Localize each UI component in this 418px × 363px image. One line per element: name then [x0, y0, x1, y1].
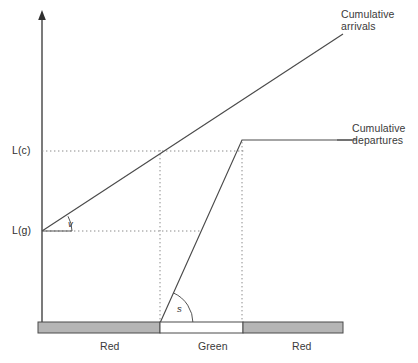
series-label-arrivals-line2: arrivals: [341, 20, 395, 32]
angle-label-v: v: [68, 218, 73, 230]
series-label-arrivals-line1: Cumulative: [341, 8, 395, 20]
series-label-departures-line2: departures: [352, 134, 406, 146]
angle-label-s: s: [177, 303, 182, 315]
diagram-canvas: [0, 0, 418, 363]
phase-red-2: [243, 322, 343, 333]
y-axis: [38, 10, 46, 325]
cumulative-arrivals-line: [42, 34, 343, 231]
series-label-departures: Cumulative departures: [352, 122, 406, 146]
axis-label-lc: L(c): [12, 144, 30, 156]
phase-label-red-2: Red: [292, 340, 312, 352]
series-label-departures-line1: Cumulative: [352, 122, 406, 134]
up-arrow-icon: [38, 10, 46, 20]
series-label-arrivals: Cumulative arrivals: [341, 8, 395, 32]
cumulative-departures-line: [160, 140, 357, 323]
phase-label-red-1: Red: [100, 340, 120, 352]
phase-label-green: Green: [198, 340, 228, 352]
queueing-diagram: L(c) L(g) v s Red Green Red Cumulative a…: [0, 0, 418, 363]
phase-red-1: [38, 322, 160, 333]
signal-phase-bar: [38, 322, 343, 333]
phase-green: [160, 322, 243, 333]
reference-lines: [42, 142, 244, 321]
axis-label-lg: L(g): [12, 224, 31, 236]
